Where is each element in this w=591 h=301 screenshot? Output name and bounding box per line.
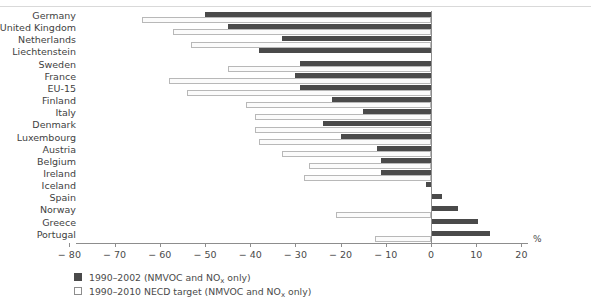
bar-target [191,42,431,48]
bar-target [142,17,431,23]
legend-label-observed: 1990–2002 (NMVOC and NOx only) [89,272,251,283]
category-label: Austria [0,145,76,155]
category-label: France [0,72,76,82]
legend-label-target: 1990–2010 NECD target (NMVOC and NOx onl… [89,286,311,297]
bar-observed [431,231,490,236]
chart-legend: 1990–2002 (NMVOC and NOx only) 1990–2010… [74,270,311,298]
bar-target [169,78,431,84]
bar-target [259,139,431,145]
x-axis-tick [431,243,432,247]
bar-observed [431,206,458,211]
legend-swatch-filled-icon [74,273,82,281]
x-axis-tick [476,243,477,247]
x-axis-tick [521,243,522,247]
category-label: Norway [0,205,76,215]
category-label: Netherlands [0,35,76,45]
bar-target [375,236,432,242]
x-axis-line [76,243,528,244]
category-label: Ireland [0,169,76,179]
legend-item-target: 1990–2010 NECD target (NMVOC and NOx onl… [74,284,311,298]
x-axis-tick-label: − 50 [193,249,216,260]
x-axis-tick-label: − 30 [284,249,307,260]
category-label: Luxembourg [0,133,76,143]
x-axis-tick [160,243,161,247]
horizontal-bar-chart: GermanyUnited KingdomNetherlandsLiechten… [0,0,591,301]
x-axis-tick [205,243,206,247]
bar-target [173,29,431,35]
bar-target [255,114,431,120]
category-label: EU-15 [0,84,76,94]
category-label: Portugal [0,230,76,240]
category-label: Italy [0,108,76,118]
x-axis-tick [69,243,70,247]
bar-target [228,66,431,72]
x-axis-tick-label: − 80 [58,249,81,260]
bar-observed [431,194,442,199]
x-axis-tick [341,243,342,247]
category-label: Finland [0,96,76,106]
bar-target [187,90,431,96]
legend-item-observed: 1990–2002 (NMVOC and NOx only) [74,270,311,284]
bar-target [282,151,431,157]
bar-target [255,127,431,133]
bar-target [246,102,431,108]
x-axis-tick [386,243,387,247]
x-axis-tick-label: − 60 [148,249,171,260]
x-axis-tick-label: − 10 [374,249,397,260]
x-axis-tick-label: 10 [470,249,482,260]
category-label: Germany [0,11,76,21]
bar-observed [431,219,478,224]
x-axis-tick-label: − 40 [239,249,262,260]
zero-baseline [431,11,432,246]
category-label: Greece [0,218,76,228]
bar-target [336,212,431,218]
x-axis-tick [295,243,296,247]
category-label: United Kingdom [0,23,76,33]
bar-target [309,163,431,169]
x-axis-tick-label: − 70 [103,249,126,260]
x-axis-tick-label: 20 [515,249,527,260]
x-axis-tick-label: 0 [428,249,434,260]
x-axis-unit-label: % [533,234,542,244]
category-label: Spain [0,193,76,203]
legend-swatch-open-icon [74,287,82,295]
category-label: Iceland [0,181,76,191]
category-label: Liechtenstein [0,47,76,57]
bar-target [304,175,431,181]
category-label: Sweden [0,60,76,70]
category-label: Belgium [0,157,76,167]
x-axis-tick-label: − 20 [329,249,352,260]
x-axis-tick [250,243,251,247]
plot-area: GermanyUnited KingdomNetherlandsLiechten… [0,11,591,243]
bar-observed [259,48,431,53]
category-label: Denmark [0,120,76,130]
x-axis-tick [115,243,116,247]
